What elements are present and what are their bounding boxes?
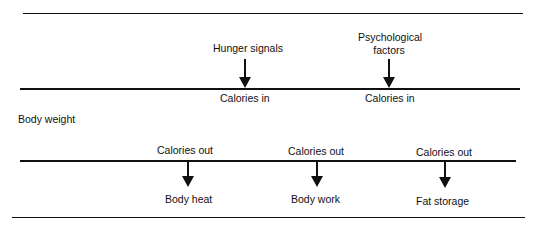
- top-border-line: [23, 13, 523, 14]
- psychological-factors-label: Psychological factors: [358, 31, 420, 57]
- psychological-label-line1: Psychological: [358, 31, 420, 44]
- calories-out-label-1: Calories out: [157, 144, 213, 157]
- calories-out-label-2: Calories out: [288, 145, 344, 158]
- calories-in-label-1: Calories in: [220, 92, 270, 105]
- body-heat-label: Body heat: [165, 193, 212, 206]
- hunger-signals-label: Hunger signals: [213, 42, 283, 55]
- intake-line: [20, 88, 520, 90]
- body-weight-label: Body weight: [18, 113, 75, 126]
- fat-storage-label: Fat storage: [416, 195, 469, 208]
- bottom-border-line: [12, 217, 525, 218]
- body-work-label: Body work: [291, 193, 340, 206]
- calories-out-label-3: Calories out: [416, 146, 472, 159]
- output-line: [20, 160, 516, 162]
- calories-in-label-2: Calories in: [365, 92, 415, 105]
- psychological-label-line2: factors: [358, 44, 420, 57]
